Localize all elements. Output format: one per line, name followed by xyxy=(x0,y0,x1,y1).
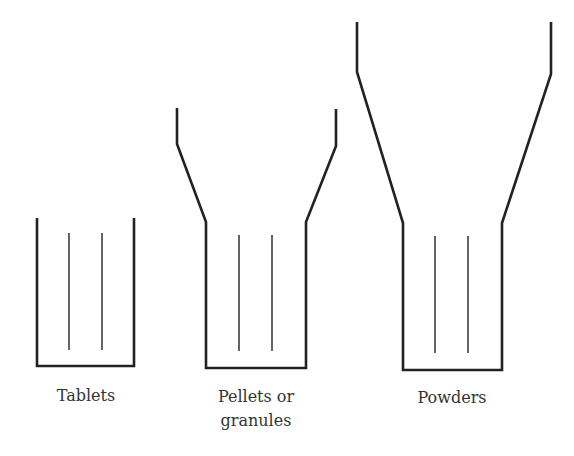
vessel-label-powders: Powders xyxy=(417,386,486,410)
vessel-label-tablets: Tablets xyxy=(57,384,115,408)
vessel-outline xyxy=(177,108,336,368)
vessel-outline xyxy=(37,218,134,366)
vessel-outline xyxy=(357,22,551,370)
label-line: granules xyxy=(218,409,294,433)
label-line: Powders xyxy=(417,386,486,410)
vessel-tablets xyxy=(37,218,134,366)
vessel-diagram: TabletsPellets orgranulesPowders xyxy=(0,0,574,456)
label-line: Tablets xyxy=(57,384,115,408)
vessel-pellets-or-granules xyxy=(177,108,336,368)
label-line: Pellets or xyxy=(218,385,294,409)
vessel-powders xyxy=(357,22,551,370)
vessel-label-pellets-or-granules: Pellets orgranules xyxy=(218,385,294,433)
